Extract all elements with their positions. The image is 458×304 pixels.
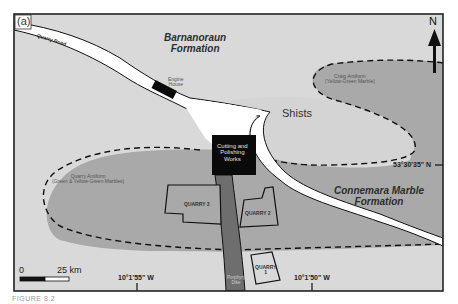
longitude-west-label: 10°1'55" W (118, 274, 154, 281)
barnanoraun-line-2: Formation (164, 44, 226, 55)
engine-house-label: Engine House (168, 77, 184, 88)
connemara-line-2: Formation (334, 197, 424, 208)
porphyry-dike-line-2: Dike (227, 281, 245, 286)
connemara-line-1: Connemara Marble (334, 186, 424, 197)
scale-end-label: 25 km (57, 266, 82, 275)
figure-caption: FIGURE 8.2 (12, 295, 55, 302)
cutting-works-line-2: Polishing (217, 149, 248, 155)
north-label: N (429, 16, 437, 28)
barnanoraun-line-1: Barnanoraun (164, 33, 226, 44)
barnanoraun-formation-label: Barnanoraun Formation (164, 33, 226, 54)
quarry-2-label: QUARRY 2 (245, 211, 271, 216)
connemara-formation-label: Connemara Marble Formation (334, 186, 424, 207)
engine-house-line-2: House (168, 82, 184, 87)
panel-label: (a) (17, 16, 30, 28)
scale-start-label: 0 (19, 266, 24, 275)
quarry-antiform-label: Quarry Antiform (Green & Yellow-Green Ma… (52, 174, 124, 185)
craig-antiform-line-2: (Yellow-Green Marble) (325, 79, 375, 84)
quarry-antiform-line-2: (Green & Yellow-Green Marbles) (52, 179, 124, 184)
longitude-east-label: 10°1'50" W (294, 274, 330, 281)
latitude-label: 53°30'35" N (393, 161, 431, 168)
shists-label: Shists (282, 108, 312, 120)
quarry-1-label: QUARRY 1 (255, 265, 276, 276)
craig-antiform-label: Craig Antiform (Yellow-Green Marble) (325, 74, 375, 85)
quarry-1-line-2: 1 (255, 270, 276, 275)
quarry-3-label: QUARRY 3 (184, 202, 210, 207)
cutting-works-line-3: Works (217, 156, 248, 162)
cutting-works-label: Cutting and Polishing Works (217, 143, 248, 162)
porphyry-dike-label: Porphyry Dike (227, 276, 245, 285)
scale-bar (20, 277, 69, 281)
